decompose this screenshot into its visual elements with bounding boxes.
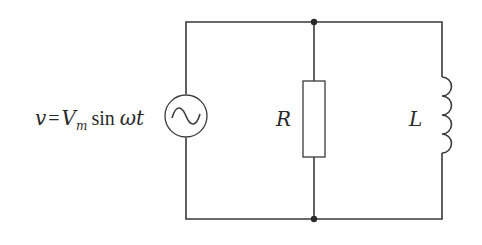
source-label: v=Vmsinωt bbox=[35, 106, 145, 133]
top-junction-node bbox=[311, 19, 317, 25]
ac-source-icon bbox=[165, 95, 207, 137]
bottom-junction-node bbox=[311, 216, 317, 222]
resistor-icon bbox=[303, 81, 325, 157]
inductor-icon bbox=[442, 77, 452, 153]
resistor-label: R bbox=[275, 107, 291, 131]
circuit-diagram: v=Vmsinωt R L bbox=[0, 0, 482, 245]
inductor-label: L bbox=[408, 107, 422, 131]
